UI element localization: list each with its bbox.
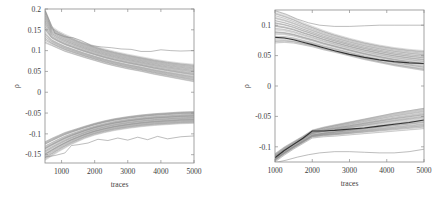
y-tick-label: 0.05 <box>258 51 271 60</box>
y-tick-label: -0.1 <box>29 130 41 139</box>
chart-panel-left: 100020003000400050000.20.150.10.050-0.05… <box>0 0 223 199</box>
bundle-trace <box>45 11 194 65</box>
x-axis-title: traces <box>341 179 359 188</box>
x-tick-label: 4000 <box>379 166 394 175</box>
data-bundle <box>45 112 194 161</box>
chart-svg-right: 100020003000400050000.10.050-0.05-0.1tra… <box>223 0 446 199</box>
x-tick-label: 2000 <box>305 166 320 175</box>
figure-canvas: 100020003000400050000.20.150.10.050-0.05… <box>0 0 446 199</box>
y-tick-label: 0 <box>37 88 41 97</box>
y-tick-label: 0.15 <box>28 26 41 35</box>
chart-svg-left: 100020003000400050000.20.150.10.050-0.05… <box>0 0 223 199</box>
x-tick-label: 1000 <box>267 166 282 175</box>
y-tick-label: -0.05 <box>255 112 271 121</box>
bundle-trace <box>275 13 424 52</box>
x-tick-label: 1000 <box>54 167 69 176</box>
data-bundle <box>275 108 424 162</box>
plot-group-right: 100020003000400050000.10.050-0.05-0.1tra… <box>223 0 446 199</box>
plot-group-left: 100020003000400050000.20.150.10.050-0.05… <box>0 0 223 199</box>
plot-mask <box>223 0 446 199</box>
x-tick-label: 3000 <box>342 166 357 175</box>
x-tick-label: 5000 <box>416 166 431 175</box>
y-axis-title: ρ <box>12 84 21 88</box>
data-bundle <box>45 9 194 82</box>
x-tick-label: 2000 <box>87 167 102 176</box>
x-tick-label: 4000 <box>153 167 168 176</box>
bundle-trace <box>45 11 194 65</box>
y-tick-label: 0 <box>267 82 271 91</box>
y-axis-title: ρ <box>242 84 251 88</box>
x-tick-label: 5000 <box>186 167 201 176</box>
y-tick-label: 0.2 <box>32 5 42 14</box>
y-tick-label: 0.1 <box>32 46 42 55</box>
y-tick-label: -0.05 <box>25 109 41 118</box>
y-tick-label: -0.15 <box>25 150 41 159</box>
x-axis-title: traces <box>111 180 129 189</box>
x-tick-label: 3000 <box>120 167 135 176</box>
y-tick-label: 0.05 <box>28 67 41 76</box>
y-tick-label: 0.1 <box>262 21 272 30</box>
chart-panel-right: 100020003000400050000.10.050-0.05-0.1tra… <box>223 0 446 199</box>
y-tick-label: -0.1 <box>259 143 271 152</box>
